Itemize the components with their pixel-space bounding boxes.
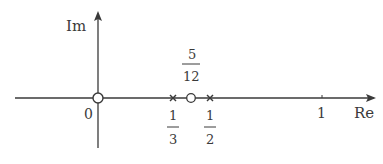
zero-marker-origin	[93, 93, 103, 103]
fraction-numerator: 5	[188, 47, 196, 62]
fraction-numerator: 1	[169, 108, 177, 123]
imag-axis-label: Im	[66, 17, 86, 35]
tick-one-label: 1	[317, 105, 326, 121]
complex-plane-diagram: Im Re 0 1 5 12 1 3 1 2	[0, 0, 383, 164]
fraction-numerator: 1	[206, 108, 214, 123]
fraction-denominator: 3	[169, 132, 177, 147]
fraction-denominator: 2	[206, 132, 214, 147]
zero-marker-five-twelfths	[187, 94, 196, 103]
real-axis-label: Re	[354, 104, 374, 122]
fraction-label-one-third: 1 3	[167, 108, 179, 147]
fraction-label-five-twelfths: 5 12	[182, 47, 200, 84]
fraction-label-one-half: 1 2	[204, 108, 216, 147]
origin-label: 0	[84, 106, 93, 122]
fraction-denominator: 12	[183, 69, 200, 84]
